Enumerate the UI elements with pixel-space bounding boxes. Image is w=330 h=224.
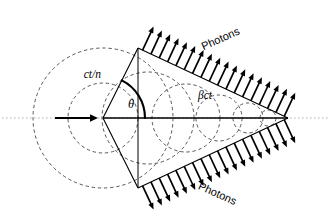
- photon-arrow-shaft-bottom-14: [259, 131, 268, 150]
- particle-arrow-head: [90, 114, 98, 121]
- photon-arrow-shaft-bottom-9: [218, 151, 227, 170]
- photon-arrow-shaft-bottom-5: [184, 166, 193, 185]
- photon-arrow-shaft-top-14: [259, 86, 268, 105]
- photon-arrow-shaft-top-6: [193, 55, 202, 74]
- photon-arrow-shaft-bottom-11: [234, 143, 243, 162]
- photon-arrow-shaft-bottom-16: [276, 124, 285, 143]
- photon-arrow-shaft-top-10: [226, 70, 235, 89]
- photon-arrow-shaft-bottom-6: [193, 163, 202, 182]
- photon-arrow-shaft-top-17: [284, 98, 293, 117]
- label-theta: θ: [128, 97, 134, 111]
- label-photons-bottom: Photons: [197, 180, 239, 208]
- photon-arrow-shaft-top-16: [276, 94, 285, 113]
- photon-arrow-shaft-bottom-0: [143, 186, 152, 205]
- particle-arrow-group: [55, 114, 98, 121]
- label-photons-top: Photons: [199, 24, 241, 52]
- photon-arrow-shaft-bottom-13: [251, 135, 260, 154]
- cone-edge-lower: [138, 118, 288, 188]
- photon-arrow-shaft-bottom-15: [268, 128, 277, 147]
- photon-arrow-shaft-top-13: [251, 82, 260, 101]
- photon-arrow-shaft-top-1: [151, 35, 160, 54]
- photon-arrow-shaft-top-11: [234, 74, 243, 93]
- photon-arrow-shaft-bottom-10: [226, 147, 235, 166]
- photon-arrow-shaft-bottom-1: [151, 182, 160, 201]
- photon-arrow-shaft-top-3: [168, 43, 177, 62]
- photon-arrow-shaft-bottom-8: [209, 155, 218, 174]
- photon-arrow-shaft-bottom-3: [168, 174, 177, 193]
- photon-arrow-shaft-top-2: [159, 39, 168, 58]
- photon-arrow-shaft-bottom-2: [159, 178, 168, 197]
- cone-edge-upper: [138, 48, 288, 118]
- photon-arrow-shaft-top-7: [201, 59, 210, 78]
- cherenkov-diagram-root: ct/n θ βct Photons Photons: [0, 0, 330, 224]
- cherenkov-diagram-canvas: ct/n θ βct Photons Photons: [0, 0, 330, 224]
- photon-arrow-shaft-bottom-4: [176, 170, 185, 189]
- label-beta-ct: βct: [197, 89, 213, 102]
- photon-arrow-shaft-top-4: [176, 47, 185, 66]
- photon-arrow-shaft-top-5: [184, 51, 193, 70]
- photon-arrow-shaft-bottom-7: [201, 159, 210, 178]
- photon-arrow-shaft-bottom-17: [284, 120, 293, 139]
- photon-arrow-shaft-top-8: [209, 63, 218, 82]
- label-ct-over-n: ct/n: [84, 68, 101, 80]
- photon-arrow-shaft-top-9: [218, 67, 227, 86]
- photon-arrow-shaft-top-0: [143, 32, 152, 51]
- photon-arrow-shaft-top-12: [243, 78, 252, 97]
- photon-arrow-shaft-top-15: [268, 90, 277, 109]
- photon-arrow-shaft-bottom-12: [243, 139, 252, 158]
